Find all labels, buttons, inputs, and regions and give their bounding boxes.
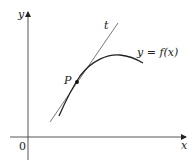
- point-p-label: P: [63, 74, 72, 87]
- origin-label: 0: [19, 140, 26, 153]
- x-axis-label: x: [181, 139, 188, 152]
- point-p: [75, 80, 79, 84]
- tangent-label: t: [104, 19, 109, 32]
- tangent-diagram: y x 0 t P y = f(x): [0, 0, 194, 165]
- y-axis-label: y: [17, 8, 25, 21]
- curve: [59, 55, 143, 116]
- tangent-line: [50, 23, 118, 122]
- curve-label: y = f(x): [136, 46, 178, 59]
